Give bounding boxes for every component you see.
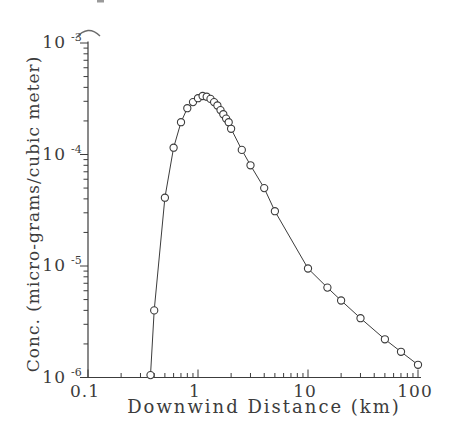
data-point-marker	[238, 146, 245, 153]
y-tick-label-exponent: -5	[71, 254, 82, 267]
data-point-marker	[151, 307, 158, 314]
data-point-marker	[338, 297, 345, 304]
y-tick-label-exponent: -6	[71, 366, 82, 379]
data-point-marker	[261, 185, 268, 192]
y-tick-label-base: 10	[42, 255, 66, 275]
y-tick-label-base: 10	[42, 144, 66, 164]
data-point-marker	[147, 372, 154, 379]
data-point-marker	[170, 144, 177, 151]
x-tick-label: 0.1	[70, 381, 100, 401]
axis-ticks	[80, 43, 418, 378]
data-point-marker	[324, 284, 331, 291]
data-point-marker	[304, 265, 311, 272]
x-axis-title: Downwind Distance (km)	[127, 396, 401, 417]
data-point-marker	[357, 315, 364, 322]
y-tick-label-base: 10	[42, 367, 66, 387]
data-point-marker	[161, 194, 168, 201]
data-point-marker	[228, 125, 235, 132]
figure: 0.111010010-310-410-510-6 Downwind Dista…	[0, 0, 453, 443]
data-point-marker	[271, 208, 278, 215]
y-tick-label-exponent: -3	[71, 31, 82, 44]
y-tick-label-base: 10	[42, 32, 66, 52]
scan-artifact-dash	[97, 0, 104, 3]
data-point-marker	[184, 105, 191, 112]
x-tick-label: 100	[397, 381, 432, 401]
y-tick-labels: 10-310-410-510-6	[42, 31, 81, 387]
y-axis-title: Conc. (micro-grams/cubic meter)	[23, 56, 43, 373]
y-tick-label-exponent: -4	[71, 143, 82, 156]
data-point-marker	[177, 119, 184, 126]
plot-area: 0.111010010-310-410-510-6	[42, 31, 432, 401]
data-point-marker	[414, 361, 421, 368]
data-point-marker	[247, 162, 254, 169]
data-point-marker	[381, 336, 388, 343]
concentration-chart: 0.111010010-310-410-510-6 Downwind Dista…	[0, 0, 453, 443]
concentration-curve	[151, 96, 419, 375]
data-point-marker	[397, 348, 404, 355]
